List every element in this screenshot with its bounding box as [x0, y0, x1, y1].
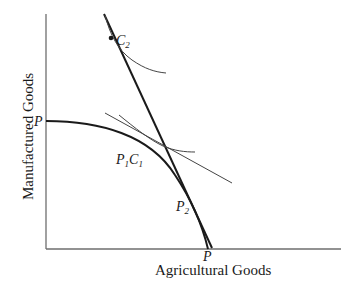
p2-label: P2 [175, 199, 190, 216]
p1c1-label: P1C1 [115, 152, 143, 169]
c2-label: C2 [116, 33, 130, 50]
c2-point [109, 36, 114, 41]
indifference-curve-1 [119, 115, 195, 152]
indifference-curve-2 [105, 15, 166, 73]
x-axis-label: Agricultural Goods [155, 262, 271, 278]
trade-diagram: C2 P P1C1 P2 P Agricultural Goods Manufa… [0, 0, 354, 291]
y-axis-label: Manufactured Goods [20, 73, 36, 200]
